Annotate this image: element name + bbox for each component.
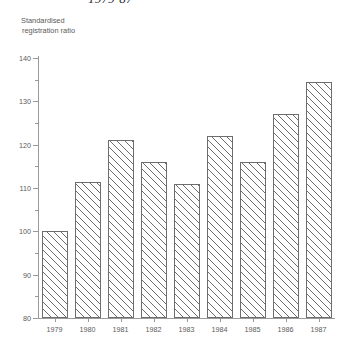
x-tick-label-1980: 1980 <box>80 325 96 334</box>
y-tick-label: 110 <box>20 184 31 193</box>
y-tick-label: 140 <box>19 54 31 63</box>
bar-1979 <box>42 231 68 318</box>
y-tick-major <box>33 58 38 59</box>
y-tick-major <box>33 145 38 146</box>
x-tick-label-1985: 1985 <box>245 325 261 334</box>
bar-1987 <box>306 82 332 318</box>
y-tick-label: 90 <box>23 271 31 280</box>
y-tick-minor <box>35 166 38 167</box>
x-tick <box>220 318 221 322</box>
y-axis-ticks: 8090100110120130140 <box>0 0 31 346</box>
y-tick-label: 120 <box>19 141 31 150</box>
x-tick <box>121 318 122 322</box>
y-tick-minor <box>35 123 38 124</box>
y-tick-major <box>33 318 38 319</box>
bar-1983 <box>174 184 200 318</box>
x-tick <box>253 318 254 322</box>
bar-1981 <box>108 140 134 318</box>
y-tick-minor <box>35 296 38 297</box>
x-tick <box>187 318 188 322</box>
bar-1980 <box>75 182 101 319</box>
x-tick-label-1981: 1981 <box>113 325 129 334</box>
chart-container: 1979-87 Standardised registration ratio … <box>0 0 341 346</box>
x-tick <box>55 318 56 322</box>
x-tick-label-1986: 1986 <box>278 325 294 334</box>
y-tick-major <box>33 101 38 102</box>
y-tick-minor <box>35 80 38 81</box>
x-tick <box>154 318 155 322</box>
chart-title: 1979-87 <box>88 0 133 7</box>
y-tick-major <box>33 188 38 189</box>
y-tick-label: 130 <box>19 97 31 106</box>
bar-1985 <box>240 162 266 318</box>
x-tick-label-1984: 1984 <box>212 325 228 334</box>
bar-1984 <box>207 136 233 318</box>
bar-1982 <box>141 162 167 318</box>
bar-1986 <box>273 114 299 318</box>
y-tick-major <box>33 231 38 232</box>
y-tick-major <box>33 275 38 276</box>
x-tick-label-1987: 1987 <box>311 325 327 334</box>
y-tick-label: 100 <box>19 227 31 236</box>
x-tick <box>88 318 89 322</box>
x-tick <box>319 318 320 322</box>
x-tick <box>286 318 287 322</box>
x-tick-label-1979: 1979 <box>47 325 63 334</box>
x-tick-label-1983: 1983 <box>179 325 195 334</box>
bars-layer <box>38 58 335 318</box>
y-tick-label: 80 <box>23 314 31 323</box>
x-tick-label-1982: 1982 <box>146 325 162 334</box>
y-tick-minor <box>35 210 38 211</box>
y-tick-minor <box>35 253 38 254</box>
